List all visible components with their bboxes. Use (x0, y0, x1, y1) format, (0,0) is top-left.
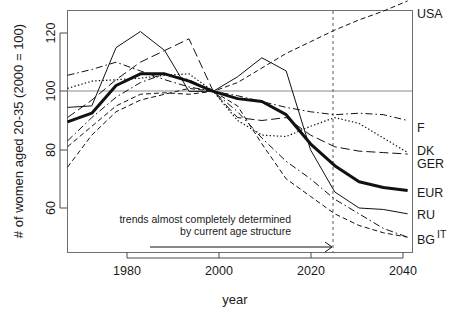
series-label-eur: EUR (417, 186, 443, 200)
series-label-ru: RU (417, 208, 435, 222)
x-tick-label-2000: 2000 (205, 264, 233, 278)
series-label-bg: BG (417, 233, 435, 247)
annotation-line-1: trends almost completely determined (119, 213, 291, 225)
series-label-usa: USA (417, 7, 443, 21)
y-tick-label-60: 60 (44, 201, 58, 215)
y-axis-title: # of women aged 20-35 (2000 = 100) (11, 24, 26, 238)
y-tick-label-120: 120 (44, 23, 58, 44)
x-tick-label-2040: 2040 (389, 264, 417, 278)
series-label-f: F (417, 121, 425, 135)
x-tick-label-2020: 2020 (297, 264, 325, 278)
chart-svg: 120 100 80 60 # of women aged 20-35 (200… (0, 0, 450, 318)
series-label-ger: GER (417, 157, 444, 171)
series-label-dk: DK (417, 144, 435, 158)
y-tick-label-80: 80 (44, 143, 58, 157)
series-label-it: IT (437, 228, 447, 240)
x-tick-label-1980: 1980 (113, 264, 141, 278)
y-tick-label-100: 100 (44, 81, 58, 102)
chart-figure: 120 100 80 60 # of women aged 20-35 (200… (0, 0, 450, 318)
x-axis-title: year (222, 292, 248, 307)
annotation-line-2: by current age structure (180, 225, 291, 237)
